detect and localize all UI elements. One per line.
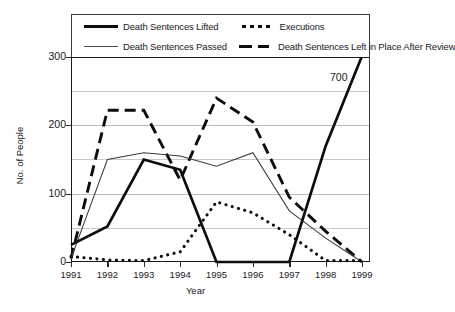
legend-label-death-sentences-lifted: Death Sentences Lifted bbox=[123, 22, 218, 32]
legend-item-death-sentences-left-in-place: Death Sentences Left in Place After Revi… bbox=[239, 42, 455, 52]
legend-row-1: Death Sentences Lifted Executions bbox=[72, 16, 369, 37]
legend-row-2: Death Sentences Passed Death Sentences L… bbox=[72, 36, 369, 57]
annotation-700: 700 bbox=[330, 71, 348, 83]
legend-label-death-sentences-left-in-place: Death Sentences Left in Place After Revi… bbox=[278, 42, 455, 52]
series-death-sentences-lifted bbox=[71, 56, 362, 262]
legend-swatch-solid-thin-icon bbox=[84, 42, 118, 52]
legend-swatch-dotted-icon bbox=[240, 22, 274, 32]
chart-legend: Death Sentences Lifted Executions Death … bbox=[71, 14, 370, 57]
legend-label-death-sentences-passed: Death Sentences Passed bbox=[123, 42, 227, 52]
legend-item-death-sentences-lifted: Death Sentences Lifted bbox=[84, 22, 218, 32]
legend-swatch-dashed-icon bbox=[239, 42, 273, 52]
legend-swatch-solid-bold-icon bbox=[84, 22, 118, 32]
legend-item-death-sentences-passed: Death Sentences Passed bbox=[84, 42, 227, 52]
legend-label-executions: Executions bbox=[279, 22, 324, 32]
series-death-sentences-left-in-place bbox=[71, 98, 362, 262]
legend-item-executions: Executions bbox=[240, 22, 324, 32]
